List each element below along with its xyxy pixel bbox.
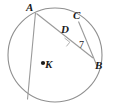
label-segment-length: 7: [79, 40, 84, 50]
circle-shape: [8, 8, 102, 102]
label-point-b: B: [95, 60, 102, 71]
label-point-c: C: [73, 10, 80, 21]
geometry-figure: A C D B K 7: [0, 0, 115, 109]
geometry-canvas: [0, 0, 115, 109]
label-point-a: A: [26, 2, 33, 13]
diameter-line: [28, 13, 36, 100]
label-center-k: K: [45, 59, 52, 70]
label-point-d: D: [61, 24, 69, 35]
